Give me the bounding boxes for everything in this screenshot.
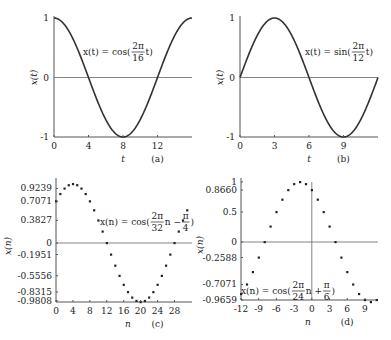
svg-text:6: 6 <box>324 292 330 302</box>
svg-text:-12: -12 <box>234 304 249 314</box>
panel-a: 0481210-1t(a)x(t)x(t) = cos(2π16t) <box>29 13 192 164</box>
svg-text:9: 9 <box>362 304 368 314</box>
svg-text:0.3827: 0.3827 <box>21 215 53 225</box>
signal-figure: 0481210-1t(a)x(t)x(t) = cos(2π16t)036910… <box>0 0 391 340</box>
sample-point <box>76 184 78 186</box>
svg-text:-0.9808: -0.9808 <box>17 296 52 306</box>
svg-text:6: 6 <box>344 304 350 314</box>
panel-c: 04812162024280.92390.70710.38270-0.1951-… <box>3 178 194 329</box>
sample-point <box>118 275 120 277</box>
sample-point <box>264 241 266 243</box>
sample-point <box>127 291 129 293</box>
svg-text:t): t) <box>366 47 373 57</box>
svg-text:4: 4 <box>183 223 189 233</box>
svg-text:0: 0 <box>237 141 243 151</box>
svg-text:3: 3 <box>272 141 278 151</box>
sample-point <box>63 187 65 189</box>
sample-point <box>287 189 289 191</box>
svg-text:0: 0 <box>51 141 57 151</box>
sample-point <box>258 257 260 259</box>
svg-text:4: 4 <box>70 306 76 316</box>
svg-text:x(n) = cos(: x(n) = cos( <box>241 286 291 296</box>
svg-text:9: 9 <box>341 141 347 151</box>
svg-text:2π: 2π <box>132 41 144 51</box>
panel-caption: (a) <box>151 154 163 164</box>
svg-text:2π: 2π <box>352 41 364 51</box>
svg-text:-0.5556: -0.5556 <box>17 271 52 281</box>
sample-point <box>311 189 313 191</box>
svg-text:-1: -1 <box>40 132 49 142</box>
panel-b: 036910-1t(b)x(t)x(t) = sin(2π12t) <box>215 13 378 164</box>
svg-text:8: 8 <box>87 306 93 316</box>
sample-point <box>144 300 146 302</box>
sample-point <box>157 284 159 286</box>
svg-text:-0.1951: -0.1951 <box>17 250 52 260</box>
svg-text:-9: -9 <box>254 304 263 314</box>
panel-d: -12-9-6-3036910.86600.50-0.2588-0.7071-0… <box>195 177 378 327</box>
sample-point <box>281 199 283 201</box>
sample-point <box>329 225 331 227</box>
svg-text:12: 12 <box>152 141 163 151</box>
svg-text:1: 1 <box>229 13 235 23</box>
svg-text:): ) <box>331 286 335 296</box>
sample-point <box>68 184 70 186</box>
svg-text:-0.2588: -0.2588 <box>202 253 237 263</box>
sample-point <box>102 230 104 232</box>
sample-point <box>85 193 87 195</box>
y-axis-label: x(t) <box>215 69 225 85</box>
sample-point <box>80 187 82 189</box>
svg-text:): ) <box>190 217 194 227</box>
svg-text:-1: -1 <box>226 132 235 142</box>
svg-text:2π: 2π <box>292 280 304 290</box>
y-axis-label: x(n) <box>3 237 13 255</box>
x-axis-label: n <box>305 317 311 327</box>
sample-point <box>148 297 150 299</box>
svg-text:1: 1 <box>43 13 49 23</box>
svg-text:12: 12 <box>353 53 364 63</box>
sample-point <box>299 181 301 183</box>
svg-text:32: 32 <box>152 223 163 233</box>
sample-point <box>123 284 125 286</box>
svg-text:0: 0 <box>309 304 315 314</box>
panel-caption: (c) <box>151 319 163 329</box>
sample-point <box>323 211 325 213</box>
svg-text:0.9239: 0.9239 <box>21 183 53 193</box>
svg-text:-3: -3 <box>290 304 299 314</box>
y-axis-label: x(n) <box>195 236 205 254</box>
svg-text:0: 0 <box>46 238 52 248</box>
svg-text:0: 0 <box>43 73 49 83</box>
sample-point <box>89 200 91 202</box>
sample-point <box>252 271 254 273</box>
svg-text:16: 16 <box>118 306 130 316</box>
sample-point <box>317 199 319 201</box>
svg-text:20: 20 <box>135 306 147 316</box>
svg-text:n −: n − <box>165 217 181 227</box>
x-axis-label: t <box>307 154 311 164</box>
svg-text:-0.7071: -0.7071 <box>202 279 237 289</box>
sample-point <box>110 254 112 256</box>
sample-point <box>270 225 272 227</box>
svg-text:-6: -6 <box>272 304 281 314</box>
sample-point <box>152 291 154 293</box>
sample-point <box>165 265 167 267</box>
svg-text:3: 3 <box>327 304 333 314</box>
svg-text:2π: 2π <box>151 211 163 221</box>
svg-text:t): t) <box>146 47 153 57</box>
panel-caption: (b) <box>337 154 350 164</box>
sample-point <box>340 257 342 259</box>
sample-point <box>114 265 116 267</box>
sample-point <box>376 299 378 301</box>
sample-point <box>59 193 61 195</box>
panel-caption: (d) <box>341 317 354 327</box>
svg-text:16: 16 <box>132 53 144 63</box>
svg-text:x(t) = sin(: x(t) = sin( <box>305 47 351 57</box>
sample-point <box>106 242 108 244</box>
sample-point <box>352 283 354 285</box>
svg-text:x(n) = cos(: x(n) = cos( <box>100 217 150 227</box>
svg-text:6: 6 <box>306 141 312 151</box>
sample-point <box>178 230 180 232</box>
sample-point <box>305 183 307 185</box>
sample-point <box>346 271 348 273</box>
svg-text:12: 12 <box>101 306 112 316</box>
sample-point <box>370 301 372 303</box>
